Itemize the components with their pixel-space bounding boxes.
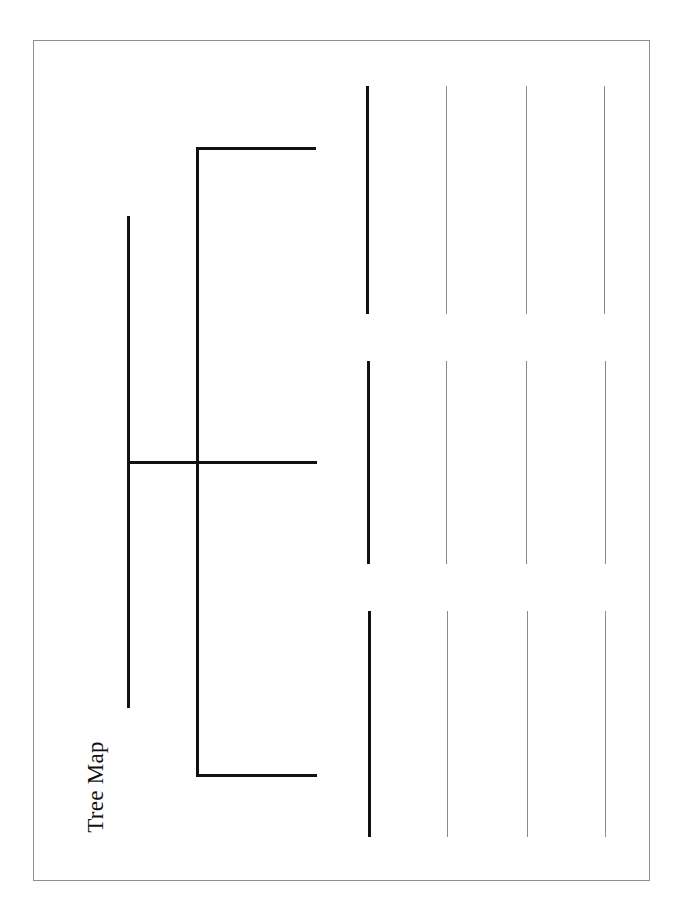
branch-3-writing-line[interactable] [605,611,606,837]
worksheet-frame [33,40,650,881]
branch-3-writing-line[interactable] [527,611,528,837]
branch-top-line [196,147,316,150]
branch-3-writing-line[interactable] [447,611,448,837]
middle-connector-line [128,461,317,464]
branch-bottom-line [198,774,317,777]
branch-2-heading-line[interactable] [367,361,370,564]
branch-1-heading-line[interactable] [366,86,369,314]
branch-bracket-vertical [196,147,199,777]
branch-2-writing-line[interactable] [446,361,447,564]
branch-3-heading-line[interactable] [368,611,371,837]
branch-2-writing-line[interactable] [526,361,527,564]
branch-2-writing-line[interactable] [605,361,606,564]
branch-1-writing-line[interactable] [526,86,527,314]
branch-1-writing-line[interactable] [446,86,447,314]
branch-1-writing-line[interactable] [604,86,605,314]
page-title: Tree Map [83,741,109,833]
